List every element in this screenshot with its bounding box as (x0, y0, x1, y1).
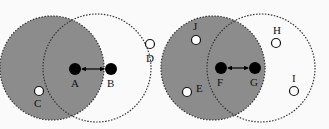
node-label-e: E (196, 82, 203, 94)
passive-node-i (290, 87, 299, 96)
active-node-g (249, 62, 261, 74)
node-label-d: D (146, 52, 154, 64)
active-node-a (69, 63, 81, 75)
node-label-g: G (250, 76, 258, 88)
passive-node-j (192, 36, 201, 45)
shaded-range-circle (0, 16, 104, 120)
node-label-a: A (71, 77, 79, 89)
node-label-c: C (34, 97, 41, 109)
node-label-f: F (217, 76, 223, 88)
node-label-i: I (292, 72, 296, 84)
passive-node-h (272, 39, 281, 48)
panel-right: FGJEHI (161, 14, 315, 122)
network-range-diagram: ABCDFGJEHI (0, 0, 329, 129)
active-node-f (215, 62, 227, 74)
passive-node-d (146, 40, 155, 49)
passive-node-c (35, 87, 44, 96)
node-label-b: B (107, 77, 114, 89)
node-label-j: J (193, 20, 198, 32)
passive-node-e (183, 88, 192, 97)
panel-left: ABCD (0, 14, 155, 122)
active-node-b (105, 63, 117, 75)
node-label-h: H (273, 24, 281, 36)
